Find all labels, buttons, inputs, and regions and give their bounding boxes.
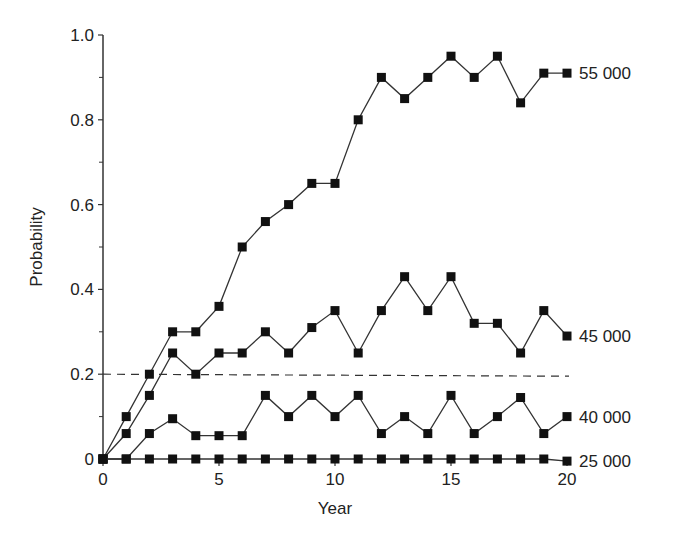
labels-group: 55 00045 00040 00025 000	[579, 64, 631, 471]
data-point-marker	[284, 200, 293, 209]
series-label-45000: 45 000	[579, 327, 631, 346]
data-point-marker	[516, 349, 525, 358]
data-point-marker	[145, 429, 154, 438]
data-point-marker	[215, 455, 224, 464]
data-point-marker	[470, 455, 479, 464]
data-point-marker	[331, 306, 340, 315]
data-point-marker	[191, 455, 200, 464]
data-point-marker	[516, 455, 525, 464]
data-point-marker	[261, 455, 270, 464]
data-point-marker	[377, 455, 386, 464]
data-point-marker	[539, 69, 548, 78]
data-point-marker	[145, 391, 154, 400]
data-point-marker	[215, 431, 224, 440]
data-point-marker	[238, 431, 247, 440]
dashed-threshold-line	[103, 374, 569, 376]
reference-line-dashed	[103, 374, 569, 376]
data-point-marker	[493, 412, 502, 421]
series-line	[103, 56, 567, 459]
line-chart: 00.20.40.60.81.005101520YearProbability …	[0, 0, 676, 542]
data-point-marker	[331, 179, 340, 188]
data-point-marker	[470, 429, 479, 438]
data-point-marker	[539, 455, 548, 464]
data-point-marker	[447, 52, 456, 61]
x-tick-label: 0	[98, 470, 107, 489]
data-point-marker	[238, 243, 247, 252]
data-point-marker	[447, 391, 456, 400]
data-point-marker	[354, 455, 363, 464]
data-point-marker	[238, 455, 247, 464]
data-point-marker	[447, 272, 456, 281]
data-point-marker	[331, 412, 340, 421]
series-line	[103, 395, 567, 459]
data-point-marker	[400, 455, 409, 464]
y-tick-label: 0.8	[70, 111, 94, 130]
x-tick-label: 20	[558, 470, 577, 489]
series-line	[103, 277, 567, 459]
data-point-marker	[470, 73, 479, 82]
data-point-marker	[122, 455, 131, 464]
data-point-marker	[423, 306, 432, 315]
data-point-marker	[191, 327, 200, 336]
series-label-25000: 25 000	[579, 452, 631, 471]
data-point-marker	[168, 455, 177, 464]
data-point-marker	[447, 455, 456, 464]
y-tick-label: 0.2	[70, 365, 94, 384]
data-point-marker	[284, 349, 293, 358]
data-point-marker	[145, 370, 154, 379]
data-point-marker	[215, 302, 224, 311]
data-point-marker	[215, 349, 224, 358]
y-tick-label: 0.4	[70, 280, 94, 299]
data-point-marker	[539, 306, 548, 315]
data-point-marker	[354, 349, 363, 358]
y-tick-label: 0.6	[70, 196, 94, 215]
data-point-marker	[261, 327, 270, 336]
data-point-marker	[516, 393, 525, 402]
data-point-marker	[307, 391, 316, 400]
data-point-marker	[423, 455, 432, 464]
data-point-marker	[400, 94, 409, 103]
series-label-40000: 40 000	[579, 408, 631, 427]
x-tick-label: 15	[442, 470, 461, 489]
x-axis-label: Year	[318, 499, 353, 518]
data-point-marker	[307, 455, 316, 464]
y-tick-label: 0	[85, 450, 94, 469]
y-tick-label: 1.0	[70, 26, 94, 45]
data-point-marker	[516, 98, 525, 107]
series-45000	[99, 272, 572, 463]
data-point-marker	[168, 414, 177, 423]
data-point-marker	[539, 429, 548, 438]
axes: 00.20.40.60.81.005101520YearProbability	[27, 26, 576, 518]
data-point-marker	[331, 455, 340, 464]
data-point-marker	[470, 319, 479, 328]
data-point-marker	[354, 391, 363, 400]
data-point-marker	[284, 455, 293, 464]
data-point-marker	[493, 319, 502, 328]
y-axis-label: Probability	[27, 207, 46, 287]
data-point-marker	[493, 455, 502, 464]
data-point-marker	[493, 52, 502, 61]
data-point-marker	[261, 217, 270, 226]
data-point-marker	[354, 115, 363, 124]
data-point-marker	[423, 429, 432, 438]
data-point-marker	[168, 327, 177, 336]
data-point-marker	[377, 73, 386, 82]
data-point-marker	[307, 323, 316, 332]
data-point-marker	[423, 73, 432, 82]
data-point-marker	[145, 455, 154, 464]
data-point-marker	[307, 179, 316, 188]
data-point-marker	[191, 431, 200, 440]
data-point-marker	[168, 349, 177, 358]
series-55000	[99, 52, 572, 464]
data-point-marker	[191, 370, 200, 379]
data-point-marker	[400, 412, 409, 421]
series-group	[99, 52, 572, 466]
data-point-marker	[261, 391, 270, 400]
data-point-marker	[122, 412, 131, 421]
data-point-marker	[284, 412, 293, 421]
data-point-marker	[563, 69, 572, 78]
data-point-marker	[377, 306, 386, 315]
data-point-marker	[99, 455, 108, 464]
series-40000	[99, 391, 572, 464]
data-point-marker	[377, 429, 386, 438]
